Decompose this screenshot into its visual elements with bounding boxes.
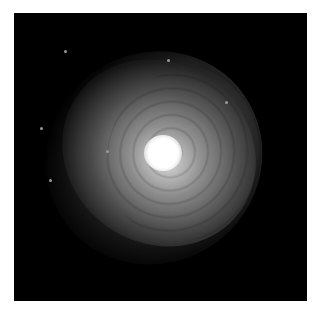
star (49, 179, 52, 182)
galaxy-core (144, 135, 182, 171)
star (64, 50, 67, 53)
star (225, 101, 228, 104)
star (167, 59, 170, 62)
star (106, 150, 109, 153)
galaxy-image (14, 13, 307, 301)
star (40, 127, 43, 130)
